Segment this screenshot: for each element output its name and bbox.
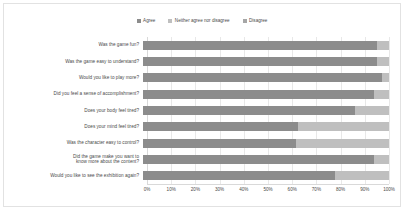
bar-row: Was the character easy to control? [18, 135, 389, 151]
category-label: Would you like to see the exhibition aga… [18, 173, 143, 179]
bar-segment-agree [143, 41, 377, 50]
bar-track [143, 106, 389, 115]
x-tick-label: 100% [383, 186, 395, 193]
bar-segment-agree [143, 73, 382, 82]
x-tick-label: 10% [167, 186, 176, 193]
category-label: Does your body feel tired? [18, 108, 143, 114]
bar-segment-agree [143, 139, 296, 148]
bar-track [143, 73, 389, 82]
bar-track [143, 122, 389, 131]
bar-track [143, 155, 389, 164]
bar-row: Was the game easy to understand? [18, 53, 389, 69]
bar-segment-agree [143, 106, 355, 115]
category-label: Does your mind feel tired? [18, 124, 143, 130]
gridline [389, 37, 390, 184]
bar-track [143, 139, 389, 148]
bar-segment-agree [143, 171, 335, 180]
bar-track [143, 57, 389, 66]
x-tick-label: 80% [336, 186, 345, 193]
x-tick-label: 60% [288, 186, 297, 193]
bar-row: Would you like to see the exhibition aga… [18, 168, 389, 184]
x-tick-label: 0% [144, 186, 151, 193]
bar-segment-neither-agree-nor-disagree [296, 139, 389, 148]
x-tick-label: 70% [312, 186, 321, 193]
bar-segment-agree [143, 57, 377, 66]
chart-container: Agree Neither agree nor disagree Disagre… [3, 3, 401, 207]
category-label: Did you feel a sense of accomplishment? [18, 91, 143, 97]
bar-row: Does your body feel tired? [18, 102, 389, 118]
bar-segment-neither-agree-nor-disagree [377, 57, 389, 66]
category-label: Was the character easy to control? [18, 140, 143, 146]
bar-segment-agree [143, 122, 298, 131]
bar-row: Did the game make you want to know more … [18, 151, 389, 167]
bar-segment-neither-agree-nor-disagree [335, 171, 389, 180]
category-label: Was the game easy to understand? [18, 59, 143, 65]
bar-track [143, 41, 389, 50]
bar-track [143, 171, 389, 180]
bar-segment-neither-agree-nor-disagree [355, 106, 389, 115]
bar-segment-neither-agree-nor-disagree [374, 155, 389, 164]
plot-area: Was the game fun?Was the game easy to un… [4, 4, 400, 206]
bar-row: Did you feel a sense of accomplishment? [18, 86, 389, 102]
bar-row: Does your mind feel tired? [18, 119, 389, 135]
x-axis-ticks: 0%10%20%30%40%50%60%70%80%90%100% [4, 186, 400, 196]
bar-segment-neither-agree-nor-disagree [377, 41, 389, 50]
category-label: Would you like to play more? [18, 75, 143, 81]
bar-segment-agree [143, 155, 374, 164]
x-tick-label: 90% [360, 186, 369, 193]
x-tick-label: 40% [239, 186, 248, 193]
category-label: Was the game fun? [18, 42, 143, 48]
bar-segment-neither-agree-nor-disagree [298, 122, 389, 131]
x-tick-label: 20% [191, 186, 200, 193]
bar-segment-agree [143, 90, 374, 99]
bar-row: Would you like to play more? [18, 70, 389, 86]
bar-track [143, 90, 389, 99]
x-axis-line [147, 184, 389, 185]
category-label: Did the game make you want to know more … [18, 154, 143, 165]
x-tick-label: 30% [215, 186, 224, 193]
x-tick-label: 50% [263, 186, 272, 193]
bar-row: Was the game fun? [18, 37, 389, 53]
bar-segment-neither-agree-nor-disagree [374, 90, 389, 99]
bar-rows: Was the game fun?Was the game easy to un… [18, 37, 389, 184]
bar-segment-neither-agree-nor-disagree [382, 73, 389, 82]
